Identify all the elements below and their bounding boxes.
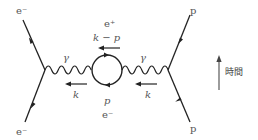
- arrow-left-icon: [98, 46, 104, 51]
- label-loop-positron: e⁺: [104, 19, 115, 29]
- arrow-left-icon: [65, 82, 71, 87]
- label-photon-left: γ: [63, 53, 69, 63]
- label-momentum-left: k: [73, 90, 79, 100]
- electron-line-incoming: [25, 70, 45, 122]
- label-loop-momentum-top: k − p: [93, 33, 120, 43]
- loop-arrow-top-icon: [104, 52, 109, 57]
- loop-arrow-bottom-icon: [105, 82, 110, 87]
- photon-line-right: [122, 66, 168, 74]
- label-electron-out: e⁻: [16, 6, 27, 16]
- label-electron-in: e⁻: [16, 127, 27, 137]
- arrow-up-icon: [216, 55, 221, 62]
- label-photon-right: γ: [140, 53, 146, 63]
- feynman-diagram: [0, 0, 258, 140]
- label-loop-momentum-bottom: p: [104, 96, 110, 106]
- photon-line-left: [45, 66, 91, 74]
- proton-line-incoming: [168, 70, 190, 122]
- time-arrow: [216, 55, 221, 90]
- fermion-loop: [92, 55, 122, 85]
- arrow-up-icon: [178, 38, 183, 45]
- label-momentum-right: k: [145, 90, 151, 100]
- label-proton-in: p: [190, 124, 196, 134]
- label-time: 時間: [225, 68, 243, 77]
- label-loop-electron: e⁻: [102, 110, 113, 120]
- momentum-arrow-left: [65, 82, 87, 87]
- momentum-arrow-right: [135, 82, 157, 87]
- momentum-arrow-loop-top: [98, 46, 120, 51]
- label-proton-out: p: [190, 6, 196, 16]
- electron-line-outgoing: [23, 20, 45, 70]
- proton-line-outgoing: [168, 15, 190, 70]
- arrow-left-icon: [135, 82, 141, 87]
